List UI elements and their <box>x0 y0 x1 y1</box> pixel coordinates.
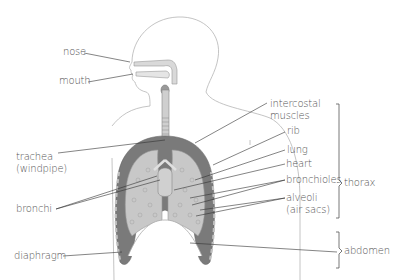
label-rib: rib <box>287 125 300 137</box>
label-bronchi: bronchi <box>16 203 52 215</box>
abdomen-brace <box>336 232 342 268</box>
label-abdomen: abdomen <box>344 245 390 257</box>
thorax-brace <box>336 104 342 218</box>
label-alveoli: alveoli <box>286 192 317 204</box>
label-thorax: thorax <box>344 177 375 189</box>
respiratory-diagram <box>0 0 396 280</box>
label-mouth: mouth <box>59 75 90 87</box>
label-trachea: trachea <box>16 151 53 163</box>
label-lung: lung <box>287 144 308 156</box>
label-intercostal: intercostal <box>270 98 321 110</box>
oral-cavity <box>136 71 169 78</box>
label-bronchioles: bronchioles <box>286 174 341 186</box>
label-alveoli-sub: (air sacs) <box>286 204 330 216</box>
label-diaphragm: diaphragm <box>14 250 66 262</box>
label-heart: heart <box>286 158 312 170</box>
heart <box>158 168 172 197</box>
label-nose: nose <box>63 46 86 58</box>
label-intercostal-sub: muscles <box>270 110 310 122</box>
label-trachea-sub: (windpipe) <box>16 163 67 175</box>
